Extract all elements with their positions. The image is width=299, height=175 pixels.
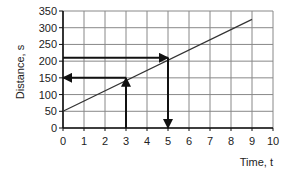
- x-tick-label: 7: [207, 135, 213, 147]
- y-tick-label: 250: [39, 38, 57, 50]
- x-tick-label: 10: [267, 135, 279, 147]
- x-axis-label: Time, t: [240, 156, 273, 168]
- x-tick-label: 3: [123, 135, 129, 147]
- distance-time-chart: 050100150200250300350 012345678910 Time,…: [0, 0, 299, 175]
- y-tick-label: 50: [45, 105, 57, 117]
- x-tick-label: 2: [102, 135, 108, 147]
- y-tick-label: 100: [39, 89, 57, 101]
- y-tick-labels: 050100150200250300350: [39, 5, 57, 134]
- x-tick-label: 9: [249, 135, 255, 147]
- x-tick-label: 5: [165, 135, 171, 147]
- x-tick-label: 8: [228, 135, 234, 147]
- data-line: [63, 19, 252, 111]
- y-tick-label: 200: [39, 55, 57, 67]
- y-tick-label: 350: [39, 5, 57, 17]
- x-tick-label: 6: [186, 135, 192, 147]
- y-axis-label: Distance, s: [14, 44, 26, 99]
- y-tick-label: 0: [51, 122, 57, 134]
- axes: [59, 11, 273, 131]
- x-tick-label: 1: [81, 135, 87, 147]
- x-tick-label: 0: [60, 135, 66, 147]
- y-tick-label: 300: [39, 22, 57, 34]
- y-tick-label: 150: [39, 72, 57, 84]
- x-tick-labels: 012345678910: [60, 135, 279, 147]
- x-tick-label: 4: [144, 135, 150, 147]
